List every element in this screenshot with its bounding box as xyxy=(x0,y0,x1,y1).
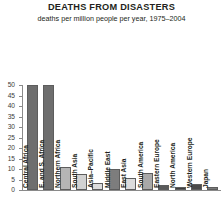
chart-subtitle: deaths per million people per year, 1975… xyxy=(0,14,223,24)
bar-category-label: E. and S. Africa xyxy=(38,140,45,188)
bar-category-label: Asia–Pacific xyxy=(87,149,94,188)
bar-category-label: Eastern Europe xyxy=(153,139,160,188)
bar-series: Central AfricaE. and S. AfricaNorthern A… xyxy=(24,85,221,190)
bar-category-label: South America xyxy=(137,142,144,188)
bar-category-label: Middle East xyxy=(104,151,111,188)
y-tick-0: 0 xyxy=(19,190,22,191)
y-tick-40: 40 xyxy=(19,106,22,107)
y-tick-25: 25 xyxy=(19,138,22,139)
y-tick-label-10: 10 xyxy=(8,166,15,173)
bar-category-label: Western Europe xyxy=(186,138,193,188)
bar xyxy=(92,183,103,190)
y-tick-label-35: 35 xyxy=(8,114,15,121)
y-tick-30: 30 xyxy=(19,127,22,128)
y-tick-label-50: 50 xyxy=(8,82,15,89)
y-tick-label-5: 5 xyxy=(11,177,15,184)
plot-area: 50454035302520151050 Central AfricaE. an… xyxy=(22,85,221,191)
y-tick-label-15: 15 xyxy=(8,156,15,163)
bar-category-label: Central Africa xyxy=(22,145,29,188)
y-tick-label-30: 30 xyxy=(8,124,15,131)
bar-category-label: South Asia xyxy=(71,154,78,188)
bar xyxy=(60,167,71,190)
chart-title-block: DEATHS FROM DISASTERS deaths per million… xyxy=(0,2,223,24)
page-title: DEATHS FROM DISASTERS xyxy=(0,2,223,13)
bar-category-label: North America xyxy=(169,143,176,188)
bar xyxy=(175,187,186,190)
bar-category-label: Northern Africa xyxy=(54,140,61,188)
deaths-from-disasters-chart: DEATHS FROM DISASTERS deaths per million… xyxy=(0,0,223,213)
y-tick-label-0: 0 xyxy=(11,187,15,194)
y-tick-label-45: 45 xyxy=(8,93,15,100)
y-tick-45: 45 xyxy=(19,96,22,97)
bar-category-label: Japan xyxy=(202,169,209,188)
bar-slot: Japan xyxy=(205,85,221,190)
bar-category-label: East Asia xyxy=(120,159,127,188)
y-tick-label-20: 20 xyxy=(8,145,15,152)
y-tick-35: 35 xyxy=(19,117,22,118)
y-tick-label-40: 40 xyxy=(8,103,15,110)
y-tick-50: 50 xyxy=(19,85,22,86)
x-axis-line xyxy=(21,190,221,191)
y-tick-label-25: 25 xyxy=(8,135,15,142)
